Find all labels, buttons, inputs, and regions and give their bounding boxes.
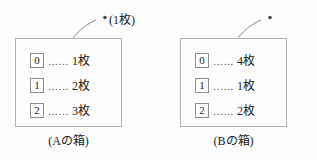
cards-in-boxes-diagram: (1枚) 0 …… 1枚 1 …… 2枚 2 …… 3枚 <box>0 0 317 160</box>
box-group-a: (1枚) 0 …… 1枚 1 …… 2枚 2 …… 3枚 <box>0 0 150 160</box>
card-count: 2枚 <box>237 105 255 117</box>
card-digit: 2 <box>195 103 209 118</box>
card-digit: 0 <box>195 53 209 68</box>
card-digit: 2 <box>30 103 44 118</box>
dot-leader: …… <box>48 56 69 67</box>
card-count: 1枚 <box>72 55 90 67</box>
card-count: 3枚 <box>72 105 90 117</box>
box-a: 0 …… 1枚 1 …… 2枚 2 …… 3枚 <box>15 38 122 127</box>
box-group-b: (2枚) 0 …… 4枚 1 …… 1枚 2 …… 2枚 <box>165 0 315 160</box>
callout-label-a: (1枚) <box>109 10 135 28</box>
card-row: 1 …… 2枚 <box>30 73 122 98</box>
card-list-a: 0 …… 1枚 1 …… 2枚 2 …… 3枚 <box>30 48 122 123</box>
box-caption-a: (Aの箱) <box>15 131 122 149</box>
card-count: 4枚 <box>237 55 255 67</box>
dot-leader: …… <box>48 81 69 92</box>
box-caption-b: (Bの箱) <box>180 131 287 149</box>
card-row: 0 …… 1枚 <box>30 48 122 73</box>
card-row: 2 …… 3枚 <box>30 98 122 123</box>
dot-leader: …… <box>213 56 234 67</box>
box-b: 0 …… 4枚 1 …… 1枚 2 …… 2枚 <box>180 38 287 127</box>
card-list-b: 0 …… 4枚 1 …… 1枚 2 …… 2枚 <box>195 48 287 123</box>
card-digit: 1 <box>195 78 209 93</box>
dot-leader: …… <box>48 106 69 117</box>
card-count: 2枚 <box>72 80 90 92</box>
dot-leader: …… <box>213 81 234 92</box>
card-digit: 0 <box>30 53 44 68</box>
card-row: 2 …… 2枚 <box>195 98 287 123</box>
dot-leader: …… <box>213 106 234 117</box>
card-row: 1 …… 1枚 <box>195 73 287 98</box>
card-count: 1枚 <box>237 80 255 92</box>
card-row: 0 …… 4枚 <box>195 48 287 73</box>
card-digit: 1 <box>30 78 44 93</box>
